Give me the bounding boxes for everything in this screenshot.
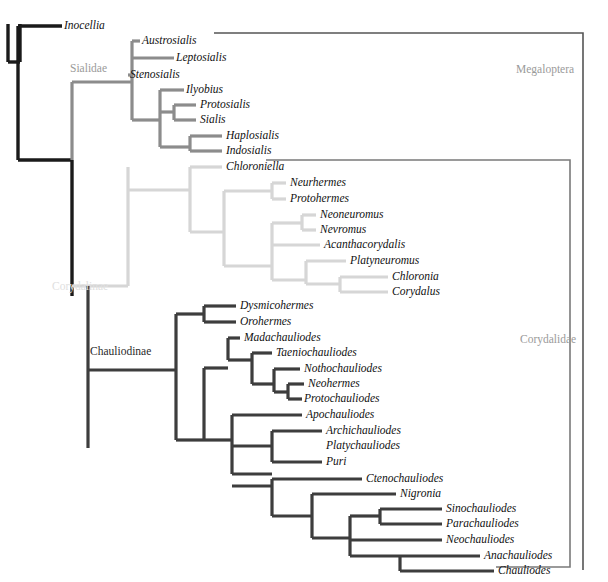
taxon-label-ctenochauliodes: Ctenochauliodes bbox=[366, 472, 444, 484]
taxon-label-neohermes: Neohermes bbox=[307, 377, 360, 389]
taxon-label-protochauliodes: Protochauliodes bbox=[303, 392, 380, 404]
clade-label-corydalinae: Corydalinae bbox=[52, 280, 108, 293]
taxon-label-austrosialis: Austrosialis bbox=[141, 34, 197, 46]
taxon-label-stenosialis: Stenosialis bbox=[130, 68, 180, 80]
taxon-label-neurhermes: Neurhermes bbox=[289, 176, 347, 188]
taxon-label-parachauliodes: Parachauliodes bbox=[445, 517, 519, 529]
taxon-label-neoneuromus: Neoneuromus bbox=[319, 208, 384, 220]
taxon-label-inocellia: Inocellia bbox=[63, 19, 105, 31]
phylogenetic-tree-figure: InocelliaAustrosialisLeptosialisStenosia… bbox=[0, 0, 608, 582]
taxon-label-anachauliodes: Anachauliodes bbox=[483, 549, 553, 561]
taxon-label-ilyobius: Ilyobius bbox=[185, 83, 224, 96]
taxon-label-chauliodes: Chauliodes bbox=[498, 564, 551, 576]
taxon-label-leptosialis: Leptosialis bbox=[175, 51, 227, 64]
taxon-label-sialis: Sialis bbox=[200, 113, 226, 125]
taxon-label-dysmicohermes: Dysmicohermes bbox=[239, 299, 314, 312]
taxon-label-archichauliodes: Archichauliodes bbox=[325, 424, 401, 436]
taxon-label-orohermes: Orohermes bbox=[240, 315, 292, 327]
taxon-label-apochauliodes: Apochauliodes bbox=[305, 408, 375, 421]
clade-label-chauliodinae: Chauliodinae bbox=[90, 345, 151, 357]
taxon-label-platyneuromus: Platyneuromus bbox=[349, 254, 420, 267]
taxon-label-platychauliodes: Platychauliodes bbox=[325, 439, 401, 452]
taxon-label-nigronia: Nigronia bbox=[399, 487, 441, 500]
taxon-label-neochauliodes: Neochauliodes bbox=[445, 533, 515, 545]
taxon-label-haplosialis: Haplosialis bbox=[225, 129, 280, 142]
taxon-label-puri: Puri bbox=[325, 455, 346, 467]
taxon-label-protohermes: Protohermes bbox=[289, 192, 350, 204]
taxon-label-indosialis: Indosialis bbox=[225, 144, 272, 156]
taxon-label-nevromus: Nevromus bbox=[319, 223, 367, 235]
taxon-label-protosialis: Protosialis bbox=[199, 98, 251, 110]
clade-label-corydalidae: Corydalidae bbox=[520, 333, 576, 346]
taxon-label-corydalus: Corydalus bbox=[392, 285, 440, 298]
taxon-label-acanthacorydalis: Acanthacorydalis bbox=[323, 238, 406, 251]
taxon-label-sinochauliodes: Sinochauliodes bbox=[446, 502, 517, 514]
clade-label-megaloptera: Megaloptera bbox=[516, 63, 574, 76]
taxon-label-nothochauliodes: Nothochauliodes bbox=[303, 362, 382, 374]
taxon-label-taeniochauliodes: Taeniochauliodes bbox=[276, 346, 357, 358]
taxon-label-chloronia: Chloronia bbox=[392, 270, 439, 282]
clade-label-sialidae: Sialidae bbox=[70, 62, 107, 74]
taxon-label-madachauliodes: Madachauliodes bbox=[243, 331, 321, 343]
taxon-label-chloroniella: Chloroniella bbox=[226, 160, 285, 172]
